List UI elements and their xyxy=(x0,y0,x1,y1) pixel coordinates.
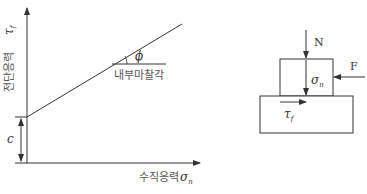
normal-force-label: N xyxy=(314,36,324,49)
svg-text:전단응력: 전단응력 xyxy=(3,52,16,92)
failure-envelope-diagram: 전단응력 τf ϕ 내부마찰각 c 수직응력 σn xyxy=(2,8,200,186)
shear-force-label: F xyxy=(350,60,358,73)
lower-box xyxy=(260,96,353,133)
shear-box-diagram: N σn F τf xyxy=(260,30,365,133)
cohesion-label: c xyxy=(7,132,14,146)
x-axis-label: 수직응력 xyxy=(139,171,179,184)
x-axis-symbol: σn xyxy=(180,170,193,186)
phi-label: ϕ xyxy=(135,49,143,63)
y-axis-label: 전단응력 τf xyxy=(2,24,17,92)
svg-text:τf: τf xyxy=(2,24,17,35)
diagram-canvas: 전단응력 τf ϕ 내부마찰각 c 수직응력 σn N σn F τf xyxy=(0,0,367,194)
internal-friction-angle-label: 내부마찰각 xyxy=(114,69,164,82)
